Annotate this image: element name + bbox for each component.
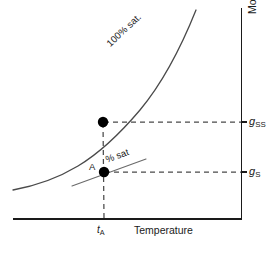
- state-point-a-marker: [99, 167, 109, 177]
- y-axis-tick-label-gss: gSS: [249, 116, 266, 127]
- gss-subscript: SS: [255, 120, 266, 129]
- x-axis-label: Temperature: [134, 225, 193, 236]
- saturation-curve-100-percent: [13, 10, 196, 190]
- x-tick-subscript: A: [100, 228, 105, 237]
- psychrometric-chart-figure: 100% sat. % sat A tA Temperature Moistur…: [0, 0, 270, 258]
- saturation-point-marker: [98, 117, 108, 127]
- gs-subscript: S: [255, 170, 260, 179]
- y-axis-label: Moisture content: [247, 0, 258, 14]
- y-axis-tick-label-gs: gS: [249, 166, 260, 177]
- chart-canvas: [0, 0, 270, 258]
- x-axis-tick-label-ta: tA: [97, 225, 105, 235]
- point-a-label: A: [89, 162, 95, 172]
